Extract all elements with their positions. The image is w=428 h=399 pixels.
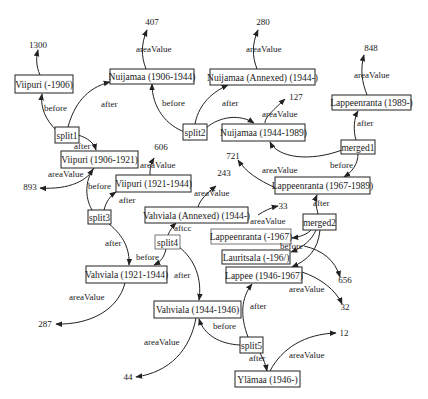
edge-label-after: after	[101, 99, 117, 109]
edge-label-before: before	[213, 321, 236, 331]
node-label: Nuijamaa (1944-1989)	[220, 128, 307, 139]
node-lappeenranta-1967-1989[interactable]: Lappeenranta (1967-1989)	[272, 177, 374, 194]
node-label: merged1	[341, 143, 374, 153]
value-656: 656	[338, 275, 352, 285]
node-label: merged2	[303, 218, 336, 228]
value-127: 127	[289, 92, 303, 102]
edge-label-after: after	[174, 270, 190, 280]
edge-label-before: before	[88, 181, 111, 191]
edge-label-after: after	[250, 301, 266, 311]
value-243: 243	[217, 168, 231, 178]
node-split3[interactable]: split3	[88, 210, 111, 224]
value-44: 44	[124, 372, 134, 382]
node-lappeenranta-1989[interactable]: Lappeenranta (1989-)	[330, 95, 413, 110]
node-label: Vahviala (1944-1946)	[156, 305, 239, 316]
node-label: Lappeenranta (1989-)	[330, 98, 413, 109]
node-lappee-1946-1967[interactable]: Lappee (1946-1967)	[225, 267, 303, 283]
edge-label-area-value: areaValue	[48, 169, 83, 179]
node-label: Ylämaa (1946-)	[237, 375, 297, 386]
node-nuijamaa-annexed[interactable]: Nuijamaa (Annexed) (1944-)	[207, 69, 318, 85]
node-ylamaa-1946[interactable]: Ylämaa (1946-)	[235, 371, 300, 387]
value-1300: 1300	[29, 40, 48, 50]
value-606: 606	[154, 142, 168, 152]
edge-label-after: after	[74, 141, 90, 151]
edge-label-after: after	[105, 238, 121, 248]
node-merged1[interactable]: merged1	[341, 140, 375, 154]
node-nuijamaa-1906-1944[interactable]: Nuijamaa (1906-1944)	[109, 69, 196, 84]
edge-label-area-value: areaValue	[289, 284, 324, 294]
node-vahviala-1921-1944[interactable]: Vahviala (1921-1944)	[85, 266, 168, 283]
edge-label-area-value: areaValue	[144, 337, 179, 347]
node-viipuri-1906-1921[interactable]: Viipuri (1906-1921)	[61, 151, 138, 168]
edge-label-after: after	[222, 98, 238, 108]
node-label: Lappeenranta (1967-1989)	[272, 181, 374, 192]
node-label: split3	[89, 213, 110, 223]
edge-label-area-value: areaValue	[69, 292, 104, 302]
node-vahviala-1944-1946[interactable]: Vahviala (1944-1946)	[154, 301, 241, 318]
node-label: Viipuri (1906-1921)	[61, 155, 138, 166]
edge-label-before: before	[44, 103, 67, 113]
value-848: 848	[364, 43, 378, 53]
node-split4[interactable]: split4	[155, 235, 180, 249]
edge-label-area-value: areaValue	[262, 165, 297, 175]
node-label: Vahviala (1921-1944)	[85, 270, 168, 281]
value-33: 33	[279, 201, 289, 211]
node-label: Vahviala (Annexed) (1944-)	[143, 211, 250, 222]
value-893: 893	[23, 182, 37, 192]
value-287: 287	[38, 319, 52, 329]
node-label: split2	[184, 128, 205, 138]
value-407: 407	[145, 17, 159, 27]
node-label: Viipuri (-1906)	[15, 80, 73, 91]
node-split2[interactable]: split2	[183, 124, 207, 140]
node-viipuri-1921-1944[interactable]: Viipuri (1921-1944)	[115, 175, 192, 192]
node-label: Nuijamaa (Annexed) (1944-)	[207, 73, 318, 84]
edge-label-before: before	[136, 252, 159, 262]
node-vahviala-annexed[interactable]: Vahviala (Annexed) (1944-)	[143, 207, 250, 223]
node-label: Viipuri (1921-1944)	[115, 179, 192, 190]
edge-label-after: after	[313, 198, 329, 208]
value-12: 12	[340, 328, 349, 338]
edge-label-before: before	[330, 160, 353, 170]
node-split5[interactable]: split5	[240, 337, 263, 353]
node-label: Lauritsala (-196/)	[223, 253, 290, 264]
edge-label-before: before	[162, 98, 185, 108]
node-lauritsala-1967[interactable]: Lauritsala (-196/)	[222, 250, 290, 264]
edge-label-after: aftcc	[174, 223, 191, 233]
value-280: 280	[256, 17, 270, 27]
edge-label-after: after	[249, 353, 265, 363]
value-721: 721	[226, 151, 240, 161]
value-32: 32	[341, 302, 350, 312]
edge-label-after: after	[119, 195, 135, 205]
edge-label-before: before	[280, 241, 303, 251]
edge-label-after: after	[357, 118, 373, 128]
edge-label-area-value: areaValue	[246, 44, 281, 54]
edge-label-area-value: areaValue	[250, 216, 285, 226]
node-nuijamaa-1944-1989[interactable]: Nuijamaa (1944-1989)	[220, 124, 307, 141]
node-label: split5	[241, 341, 262, 351]
node-merged2[interactable]: merged2	[303, 214, 336, 230]
edge-label-area-value: areaValue	[136, 44, 171, 54]
edge-label-area-value: areaValue	[354, 70, 389, 80]
edge-label-area-value: areaValue	[140, 160, 175, 170]
edge-label-area-value: areaValue	[194, 188, 229, 198]
node-label: Nuijamaa (1906-1944)	[109, 72, 196, 83]
node-viipuri-1906[interactable]: Viipuri (-1906)	[15, 75, 73, 93]
edge-label-area-value: areaValue	[289, 350, 324, 360]
node-label: split1	[56, 131, 77, 141]
node-label: Lappee (1946-1967)	[225, 271, 303, 282]
node-label: split4	[157, 238, 178, 248]
history-graph-diagram: Viipuri (-1906) Nuijamaa (1906-1944) Nui…	[0, 0, 428, 399]
edge-label-area-value: areaValue	[262, 109, 297, 119]
